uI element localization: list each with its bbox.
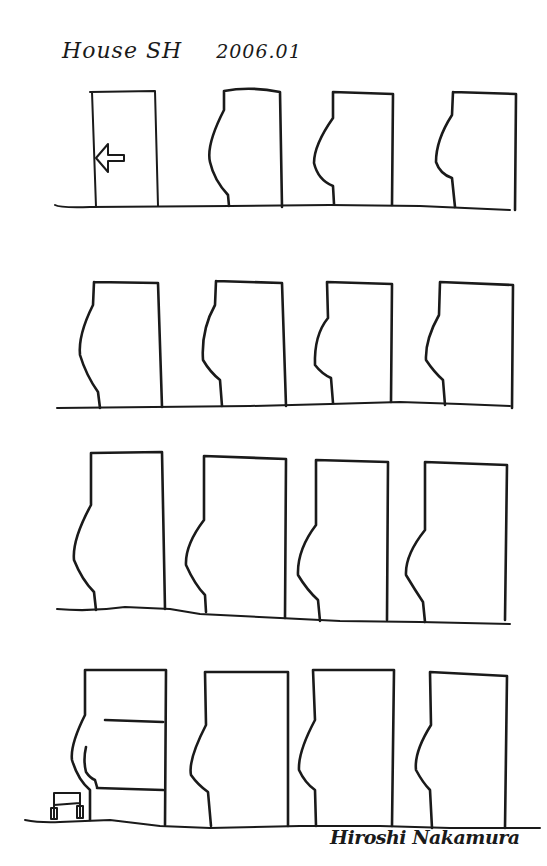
facade-1-1: [90, 91, 158, 207]
facade-3-4: [406, 462, 507, 622]
facade-3-1: [74, 452, 165, 610]
row-3: [57, 452, 510, 624]
facade-2-2: [203, 281, 286, 406]
facade-4-2: [191, 672, 288, 826]
arrow-left-icon: [96, 144, 124, 172]
ground-line-3: [57, 607, 510, 624]
facade-4-4: [416, 672, 507, 828]
facade-2-4: [426, 282, 513, 408]
facade-1-4: [436, 92, 516, 210]
row-4: [25, 670, 540, 828]
human-figure-icon: [85, 747, 98, 787]
facade-1-2: [209, 89, 282, 207]
author-signature: Hiroshi Nakamura: [330, 826, 520, 848]
facade-1-3: [314, 92, 393, 205]
facade-2-3: [315, 282, 392, 403]
sketch-sheet: House SH2006.01: [0, 0, 547, 866]
facade-4-3: [299, 670, 394, 826]
row-1: [55, 89, 516, 210]
row-2: [57, 281, 513, 408]
facade-3-2: [186, 456, 286, 618]
facade-3-3: [298, 460, 388, 621]
ground-line-2: [57, 402, 510, 408]
elevation-drawings: [0, 0, 547, 866]
facade-2-1: [80, 282, 162, 408]
chair-icon: [51, 793, 83, 819]
